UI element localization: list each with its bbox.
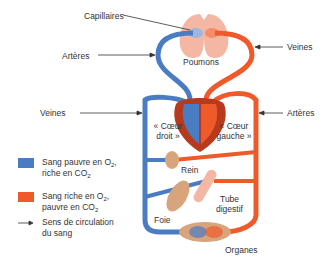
label-poumons: Poumons <box>183 57 219 67</box>
label-rein: Rein <box>181 165 198 175</box>
label-capillaires: Capillaires <box>84 11 124 21</box>
label-coeur-gauche: « Cœur gauche » <box>214 121 254 141</box>
label-tube-digestif: Tube digestif <box>216 194 243 214</box>
lungs <box>180 14 229 58</box>
label-organes: Organes <box>225 245 258 255</box>
label-arteres-top: Artères <box>62 51 89 61</box>
label-veines-left: Veines <box>40 108 66 118</box>
legend-swatch-blue <box>18 158 34 168</box>
legend-swatch-red <box>18 192 34 202</box>
label-veines-top: Veines <box>287 42 313 52</box>
label-coeur-droit: « Cœur droit » <box>150 121 186 141</box>
label-arteres-right: Artères <box>287 108 314 118</box>
